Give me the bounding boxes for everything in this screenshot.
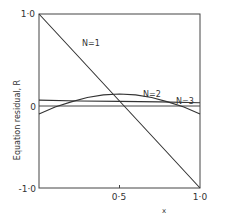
x-axis-label: x	[162, 207, 166, 215]
n3-label: N=3	[176, 97, 194, 106]
x-tick-mid-label: 0·5	[112, 192, 126, 202]
y-tick-zero: 0	[30, 102, 36, 112]
y-tick-top: 1·0	[21, 9, 36, 19]
n2-label: N=2	[143, 90, 161, 99]
n1-label: N=1	[82, 39, 100, 48]
residual-chart: 1·0 0 -1·0 0·5 1·0 x Equation residual, …	[0, 0, 236, 223]
y-axis-label: Equation residual, R	[13, 79, 22, 160]
y-tick-bottom: -1·0	[18, 184, 36, 194]
x-tick-right-label: 1·0	[193, 192, 208, 202]
